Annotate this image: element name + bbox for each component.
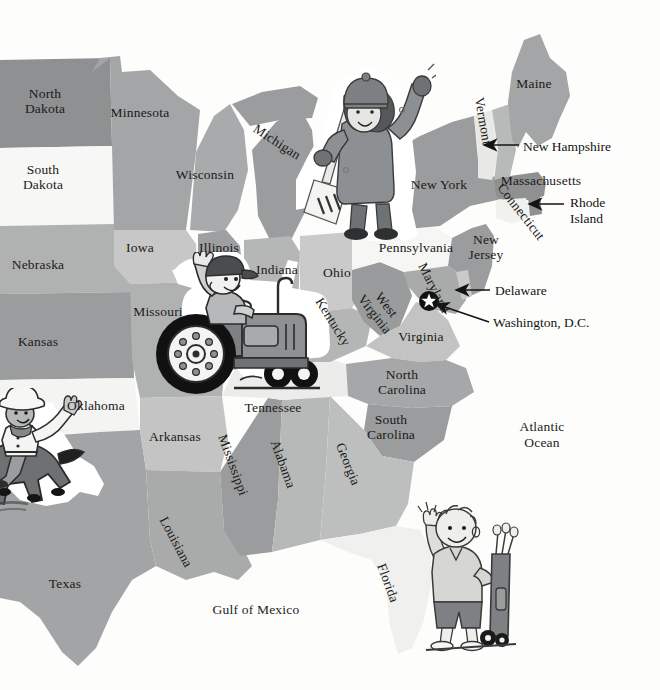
callout-label-rhode-island: Rhode Island xyxy=(570,195,605,227)
callout-label-delaware: Delaware xyxy=(495,283,547,299)
callout-label-washington-d-c: Washington, D.C. xyxy=(493,315,589,331)
new-hampshire-arrow xyxy=(0,0,660,690)
illustrated-map: North DakotaSouth DakotaMinnesotaWiscons… xyxy=(0,0,660,690)
callout-label-new-hampshire: New Hampshire xyxy=(523,139,611,155)
